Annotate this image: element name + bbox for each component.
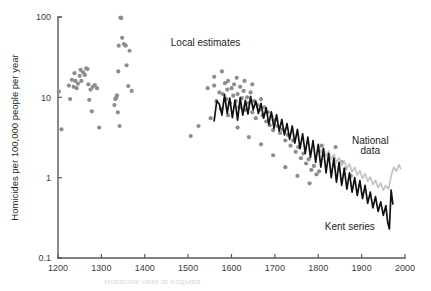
- x-tick-label: 1200: [48, 263, 68, 273]
- scatter-point: [97, 126, 101, 130]
- local-estimates-label: Local estimates: [171, 37, 240, 48]
- scatter-point: [220, 69, 224, 73]
- scatter-point: [116, 69, 120, 73]
- scatter-point: [75, 86, 79, 90]
- scatter-point: [288, 144, 292, 148]
- scatter-point: [120, 36, 124, 40]
- scatter-point: [116, 110, 120, 114]
- scatter-point: [283, 165, 287, 169]
- scatter-point: [235, 76, 239, 80]
- scatter-point: [85, 67, 89, 71]
- scatter-point: [238, 85, 242, 89]
- scatter-point: [78, 74, 82, 78]
- scatter-point: [229, 86, 233, 90]
- x-tick-label: 2000: [395, 263, 415, 273]
- scatter-point: [206, 86, 210, 90]
- scatter-point: [212, 83, 216, 87]
- scatter-point: [312, 164, 316, 168]
- y-tick-label: 10: [41, 93, 51, 103]
- scatter-point: [259, 97, 263, 101]
- scatter-point: [95, 86, 99, 90]
- scatter-point: [67, 83, 71, 87]
- scatter-point: [212, 75, 216, 79]
- scatter-point: [119, 16, 123, 20]
- scatter-point: [304, 161, 308, 165]
- scatter-point: [225, 87, 229, 91]
- scatter-point: [294, 150, 298, 154]
- scatter-point: [90, 109, 94, 113]
- scatter-point: [124, 44, 128, 48]
- scatter-point: [245, 95, 249, 99]
- scatter-point: [126, 84, 130, 88]
- scatter-point: [247, 135, 251, 139]
- scatter-point: [254, 116, 258, 120]
- chart-plot-area: 0.1110100 120013001400150016001700180019…: [0, 0, 431, 291]
- scatter-point: [317, 169, 321, 173]
- scatter-point: [235, 126, 239, 130]
- scatter-point: [127, 49, 131, 53]
- scatter-point: [76, 82, 80, 86]
- y-tick-label: 100: [36, 12, 51, 22]
- scatter-point: [79, 79, 83, 83]
- scatter-point: [117, 124, 121, 128]
- scatter-point: [112, 103, 116, 107]
- kent-series-label: Kent series: [325, 221, 375, 232]
- scatter-point: [248, 90, 252, 94]
- y-axis-title: Homicides per 100,000 people per year: [9, 54, 20, 220]
- y-tick-label: 0.1: [38, 253, 51, 263]
- x-axis-ticks: 120013001400150016001700180019002000: [48, 254, 415, 273]
- scatter-point: [130, 89, 134, 93]
- x-tick-label: 1300: [91, 263, 111, 273]
- scatter-point: [72, 71, 76, 75]
- figure-caption-strip: Homicide rates in England: [0, 280, 431, 291]
- scatter-point: [334, 145, 338, 149]
- scatter-point: [59, 127, 63, 131]
- scatter-point: [68, 97, 72, 101]
- scatter-point: [57, 89, 61, 93]
- scatter-point: [231, 94, 235, 98]
- x-tick-label: 1700: [265, 263, 285, 273]
- scatter-point: [83, 73, 87, 77]
- x-tick-label: 1800: [308, 263, 328, 273]
- scatter-point: [250, 110, 254, 114]
- x-tick-label: 1600: [221, 263, 241, 273]
- scatter-point: [309, 168, 313, 172]
- scatter-point: [124, 63, 128, 67]
- scatter-point: [299, 156, 303, 160]
- scatter-point: [295, 174, 299, 178]
- scatter-point: [196, 124, 200, 128]
- chart-figure: 0.1110100 120013001400150016001700180019…: [0, 0, 431, 291]
- scatter-point: [283, 138, 287, 142]
- scatter-point: [242, 89, 246, 93]
- scatter-point: [209, 116, 213, 120]
- x-tick-label: 1400: [135, 263, 155, 273]
- scatter-point: [232, 82, 236, 86]
- scatter-point: [259, 142, 263, 146]
- scatter-point: [235, 92, 239, 96]
- national-data-label-line2: data: [361, 145, 381, 156]
- y-tick-label: 1: [46, 173, 51, 183]
- scatter-point: [117, 44, 121, 48]
- scatter-point: [86, 82, 90, 86]
- scatter-point: [189, 134, 193, 138]
- scatter-point: [307, 181, 311, 185]
- x-tick-label: 1900: [352, 263, 372, 273]
- x-tick-label: 1500: [178, 263, 198, 273]
- scatter-point: [271, 153, 275, 157]
- scatter-point: [242, 79, 246, 83]
- scatter-point: [115, 93, 119, 97]
- line-series-kent: [214, 95, 393, 229]
- scatter-point: [226, 79, 230, 83]
- figure-caption: Homicide rates in England: [104, 280, 200, 286]
- scatter-point: [250, 82, 254, 86]
- scatter-point: [87, 98, 91, 102]
